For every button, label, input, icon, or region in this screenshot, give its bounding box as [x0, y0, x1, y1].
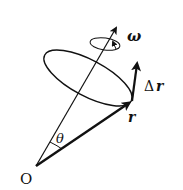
r-vector [36, 103, 129, 166]
omega-label: ω [127, 27, 141, 45]
origin-label: O [20, 170, 32, 188]
delta-r-var-label: r [156, 78, 165, 94]
delta-label: Δ [144, 78, 154, 94]
delta-r-vector [132, 64, 137, 101]
theta-label: θ [56, 131, 64, 146]
r-label: r [128, 109, 137, 125]
rotation-indicator-ellipse [89, 36, 120, 52]
precession-diagram: O θ ω Δ r r [0, 0, 183, 190]
rotation-direction-arrow [113, 42, 116, 49]
rotation-axis [36, 28, 116, 166]
